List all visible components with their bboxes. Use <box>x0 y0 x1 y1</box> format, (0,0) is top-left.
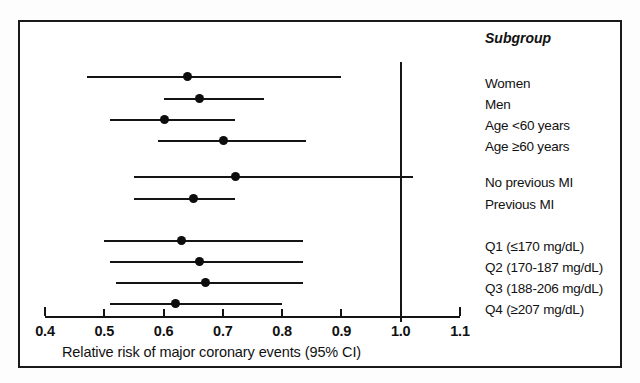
x-axis-tick-label: 0.8 <box>272 323 292 339</box>
subgroup-label: Women <box>485 76 530 91</box>
x-axis-tick <box>340 309 342 316</box>
ci-whisker-line <box>110 261 303 263</box>
x-axis-tick-label: 1.0 <box>391 323 411 339</box>
ci-point-estimate <box>183 72 192 81</box>
x-axis-tick-label: 1.1 <box>450 323 470 339</box>
ci-row <box>0 70 640 84</box>
ci-whisker-line <box>110 303 282 305</box>
x-axis-tick <box>163 309 165 316</box>
ci-point-estimate <box>189 194 198 203</box>
x-axis-end-cap <box>459 307 461 316</box>
ci-point-estimate <box>201 278 210 287</box>
subgroup-column-header: Subgroup <box>485 30 551 46</box>
subgroup-label: No previous MI <box>485 175 573 190</box>
ci-point-estimate <box>231 172 240 181</box>
ci-point-estimate <box>219 136 228 145</box>
ci-whisker-line <box>164 98 265 100</box>
subgroup-label: Q1 (≤170 mg/dL) <box>485 239 584 254</box>
x-axis-tick <box>103 309 105 316</box>
ci-whisker-line <box>134 176 413 178</box>
ci-whisker-line <box>110 119 235 121</box>
ci-whisker-line <box>87 76 342 78</box>
ci-whisker-line <box>134 198 235 200</box>
subgroup-label: Q4 (≥207 mg/dL) <box>485 302 584 317</box>
x-axis-tick-label: 0.5 <box>95 323 115 339</box>
subgroup-label: Men <box>485 97 511 112</box>
plot-area: 0.40.50.60.70.80.91.01.1 Relative risk o… <box>0 0 640 383</box>
x-axis-end-cap <box>44 307 46 316</box>
subgroup-label: Age <60 years <box>485 118 570 133</box>
ci-point-estimate <box>195 94 204 103</box>
x-axis-tick <box>400 309 402 316</box>
subgroup-label: Q3 (188-206 mg/dL) <box>485 281 603 296</box>
forest-plot-figure: 0.40.50.60.70.80.91.01.1 Relative risk o… <box>0 0 640 383</box>
x-axis-tick <box>222 309 224 316</box>
ci-whisker-line <box>158 140 306 142</box>
ci-point-estimate <box>160 115 169 124</box>
ci-point-estimate <box>177 236 186 245</box>
ci-whisker-line <box>104 240 303 242</box>
ci-row <box>0 92 640 106</box>
x-axis-tick <box>281 309 283 316</box>
subgroup-label: Age ≥60 years <box>485 139 569 154</box>
x-axis-tick-label: 0.9 <box>332 323 352 339</box>
subgroup-label: Previous MI <box>485 197 554 212</box>
ci-point-estimate <box>171 299 180 308</box>
x-axis-tick-label: 0.7 <box>213 323 233 339</box>
x-axis-line <box>45 316 460 318</box>
subgroup-label: Q2 (170-187 mg/dL) <box>485 260 603 275</box>
x-axis-tick-label: 0.4 <box>35 323 55 339</box>
x-axis-title: Relative risk of major coronary events (… <box>62 344 361 360</box>
ci-point-estimate <box>195 257 204 266</box>
x-axis-tick-label: 0.6 <box>154 323 174 339</box>
